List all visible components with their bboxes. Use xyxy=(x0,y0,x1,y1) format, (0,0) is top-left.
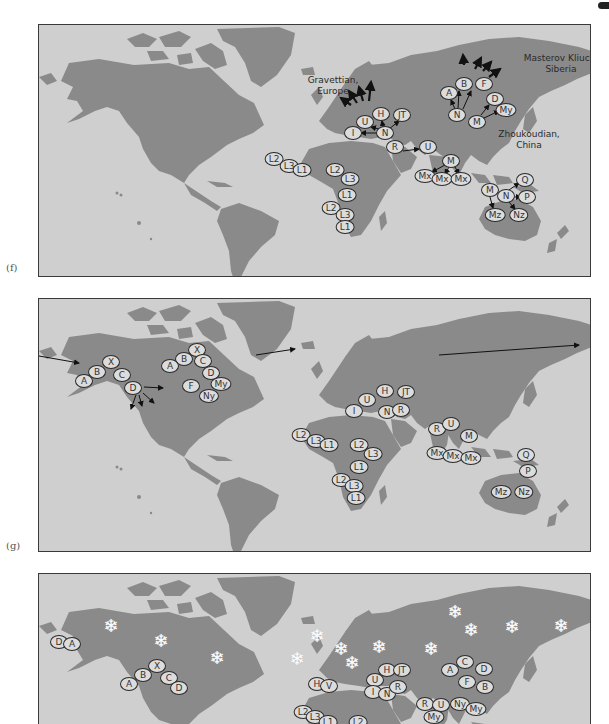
migration-arrow xyxy=(458,91,459,109)
haplogroup-marker: C xyxy=(456,655,474,669)
haplogroup-marker: A xyxy=(161,359,179,373)
migration-arrows xyxy=(39,574,591,724)
haplogroup-marker: B xyxy=(455,77,473,91)
haplogroup-marker: U xyxy=(442,417,460,431)
migration-arrow xyxy=(143,393,154,403)
place-label-line: China xyxy=(498,140,559,151)
haplogroup-marker: My xyxy=(465,702,486,716)
haplogroup-marker: R xyxy=(392,403,410,417)
haplogroup-marker: A xyxy=(75,374,93,388)
page-corner-mark xyxy=(598,2,609,9)
migration-arrow xyxy=(131,395,136,409)
snowflake-icon: ❄ xyxy=(289,650,304,668)
haplogroup-marker: B xyxy=(476,680,494,694)
haplogroup-marker: M xyxy=(468,115,486,129)
haplogroup-marker: L1 xyxy=(319,715,338,724)
map-panel-h: ❄❄❄❄❄❄❄❄❄❄❄❄❄DAXBACDHVHJTUINRACDFBRUNyMy… xyxy=(38,573,591,724)
haplogroup-marker: My xyxy=(495,103,516,117)
haplogroup-marker: M xyxy=(460,429,478,443)
haplogroup-marker: R xyxy=(386,140,404,154)
haplogroup-marker: L1 xyxy=(320,438,339,452)
haplogroup-marker: I xyxy=(345,404,363,418)
migration-arrow xyxy=(139,395,142,406)
place-label-line: Europe xyxy=(308,86,359,97)
haplogroup-marker: L1 xyxy=(336,220,355,234)
snowflake-icon: ❄ xyxy=(209,649,224,667)
migration-arrow xyxy=(489,69,500,77)
haplogroup-marker: N xyxy=(497,189,515,203)
haplogroup-marker: H xyxy=(372,107,390,121)
haplogroup-marker: P xyxy=(518,190,536,204)
haplogroup-marker: Mx xyxy=(431,172,452,186)
haplogroup-marker: Mz xyxy=(491,485,512,499)
haplogroup-marker: A xyxy=(440,86,458,100)
haplogroup-marker: L3 xyxy=(364,447,383,461)
migration-arrow xyxy=(341,98,351,105)
haplogroup-marker: L2 xyxy=(349,715,368,724)
haplogroup-marker: JT xyxy=(393,663,411,677)
panel-label-f: (f) xyxy=(6,262,18,273)
snowflake-icon: ❄ xyxy=(153,632,168,650)
haplogroup-marker: Mx xyxy=(460,451,481,465)
migration-arrows xyxy=(39,25,591,277)
migration-arrow xyxy=(463,55,464,65)
snowflake-icon: ❄ xyxy=(447,603,462,621)
haplogroup-marker: Q xyxy=(516,173,534,187)
place-label-line: Gravettian, xyxy=(308,75,359,86)
haplogroup-marker: My xyxy=(423,710,444,724)
haplogroup-marker: L3 xyxy=(341,172,360,186)
snowflake-icon: ❄ xyxy=(344,654,359,672)
place-label-gravettian-europe: Gravettian,Europe xyxy=(308,75,359,97)
haplogroup-marker: Mx xyxy=(450,172,471,186)
map-panel-f: ABFDMyNMUHJTINRUMMxMxMxL2L3L1L2L3L1L2L3L… xyxy=(38,24,591,277)
haplogroup-marker: V xyxy=(320,679,338,693)
haplogroup-marker: U xyxy=(419,140,437,154)
haplogroup-marker: X xyxy=(102,355,120,369)
haplogroup-marker: H xyxy=(376,384,394,398)
place-label-zhoukoudian-china: Zhoukoudian,China xyxy=(498,129,559,151)
haplogroup-marker: JT xyxy=(393,108,411,122)
haplogroup-marker: A xyxy=(63,637,81,651)
haplogroup-marker: U xyxy=(358,393,376,407)
haplogroup-marker: N xyxy=(448,108,466,122)
haplogroup-marker: Q xyxy=(517,448,535,462)
migration-arrow xyxy=(369,82,371,101)
migration-arrow xyxy=(256,349,295,355)
haplogroup-marker: L1 xyxy=(338,188,357,202)
migration-arrow xyxy=(463,91,471,109)
haplogroup-marker: I xyxy=(344,126,362,140)
place-label-line: Masterov Kliuch, xyxy=(524,53,591,64)
haplogroup-marker: D xyxy=(170,681,188,695)
migration-arrow xyxy=(439,345,579,355)
migration-arrow xyxy=(475,58,481,69)
snowflake-icon: ❄ xyxy=(553,617,568,635)
place-label-line: Zhoukoudian, xyxy=(498,129,559,140)
haplogroup-marker: Mz xyxy=(485,208,506,222)
haplogroup-marker: JT xyxy=(397,385,415,399)
haplogroup-marker: D xyxy=(475,662,493,676)
migration-arrow xyxy=(144,387,163,388)
haplogroup-marker: C xyxy=(113,368,131,382)
map-panel-g: XBACDXBCADMyFNyHJTUINRRUMMxMxMxL2L3L1L2L… xyxy=(38,298,591,552)
haplogroup-marker: F xyxy=(182,379,200,393)
snowflake-icon: ❄ xyxy=(371,638,386,656)
migration-arrow xyxy=(403,149,419,151)
place-label-line: Siberia xyxy=(524,64,591,75)
haplogroup-marker: D xyxy=(124,381,142,395)
migration-arrow xyxy=(432,165,445,172)
snowflake-icon: ❄ xyxy=(309,627,324,645)
snowflake-icon: ❄ xyxy=(423,640,438,658)
haplogroup-marker: P xyxy=(519,464,537,478)
haplogroup-marker: L1 xyxy=(347,491,366,505)
snowflake-icon: ❄ xyxy=(504,618,519,636)
haplogroup-marker: N xyxy=(376,126,394,140)
haplogroup-marker: A xyxy=(120,677,138,691)
migration-arrows xyxy=(39,299,591,552)
haplogroup-marker: L1 xyxy=(350,460,369,474)
place-label-masterov-kliuch-siberia: Masterov Kliuch,Siberia xyxy=(524,53,591,75)
snowflake-icon: ❄ xyxy=(463,621,478,639)
migration-arrow xyxy=(481,105,489,115)
haplogroup-marker: L1 xyxy=(293,163,312,177)
snowflake-icon: ❄ xyxy=(103,617,118,635)
migration-arrow xyxy=(483,62,491,71)
